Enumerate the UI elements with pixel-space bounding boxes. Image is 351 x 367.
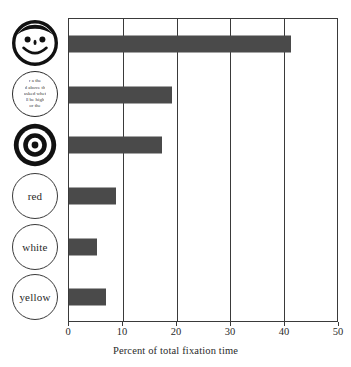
y-axis-category-label: yellow	[19, 292, 50, 303]
text-paragraph-icon: r a the d above th asked whet ll be high…	[12, 71, 58, 117]
y-axis-category-yellow: yellow	[12, 274, 58, 320]
bar-row	[69, 171, 337, 222]
x-axis-title: Percent of total fixation time	[0, 345, 351, 356]
x-tick-label-50: 50	[333, 326, 344, 337]
bullseye-target-icon	[12, 122, 58, 168]
smiley-face-icon	[12, 20, 58, 66]
bar-row	[69, 19, 337, 70]
x-tick-label-40: 40	[279, 326, 290, 337]
y-axis-category-smiley-face	[12, 20, 58, 66]
bar-white	[69, 238, 97, 255]
bar-row	[69, 70, 337, 121]
bar-chart-figure: r a the d above th asked whet ll be high…	[0, 0, 351, 367]
plot-area	[68, 18, 338, 322]
color-word-circle-icon: white	[12, 224, 58, 270]
bar-red	[69, 188, 116, 205]
y-axis-category-bullseye-target	[12, 122, 58, 168]
x-tick-label-20: 20	[171, 326, 182, 337]
bar-row	[69, 120, 337, 171]
bar-text-paragraph	[69, 86, 172, 103]
bar-smiley-face	[69, 36, 291, 53]
color-word-circle-icon: yellow	[12, 274, 58, 320]
x-tick-label-0: 0	[65, 326, 70, 337]
paragraph-line: or the	[29, 103, 41, 109]
y-axis-category-text-paragraph: r a the d above th asked whet ll be high…	[12, 71, 58, 117]
y-axis-category-label: red	[28, 191, 43, 202]
x-tick-label-10: 10	[117, 326, 128, 337]
bar-row	[69, 272, 337, 323]
y-axis-category-white: white	[12, 224, 58, 270]
y-axis-category-red: red	[12, 173, 58, 219]
color-word-circle-icon: red	[12, 173, 58, 219]
bar-bullseye-target	[69, 137, 162, 154]
y-axis-category-label: white	[22, 242, 47, 253]
bar-yellow	[69, 289, 106, 306]
x-tick-label-30: 30	[225, 326, 236, 337]
bar-row	[69, 221, 337, 272]
